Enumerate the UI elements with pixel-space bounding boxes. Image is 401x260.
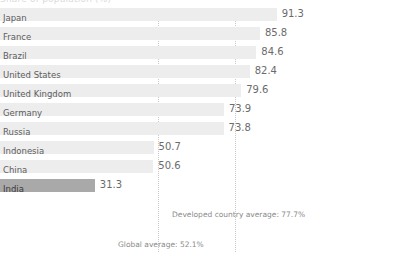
category-label-indonesia: Indonesia bbox=[3, 146, 44, 156]
bar-chart: Share of population (%) Japan91.3France8… bbox=[0, 0, 401, 260]
category-label-japan: Japan bbox=[3, 13, 27, 23]
bar-row: India31.3 bbox=[0, 179, 401, 198]
category-label-china: China bbox=[3, 165, 27, 175]
value-label-indonesia: 50.7 bbox=[159, 140, 181, 153]
bar-row: United Kingdom79.6 bbox=[0, 84, 401, 103]
bar-row: Germany73.9 bbox=[0, 103, 401, 122]
value-label-united-kingdom: 79.6 bbox=[246, 83, 268, 96]
plot-area: Japan91.3France85.8Brazil84.6United Stat… bbox=[0, 8, 401, 204]
category-label-brazil: Brazil bbox=[3, 51, 27, 61]
bar-row: France85.8 bbox=[0, 27, 401, 46]
bar-row: Japan91.3 bbox=[0, 8, 401, 27]
bar-row: Russia73.8 bbox=[0, 122, 401, 141]
value-label-france: 85.8 bbox=[265, 26, 287, 39]
annotation-global-average: Global average: 52.1% bbox=[118, 240, 204, 250]
value-label-russia: 73.8 bbox=[229, 121, 251, 134]
bar-row: Brazil84.6 bbox=[0, 46, 401, 65]
category-label-france: France bbox=[3, 32, 31, 42]
category-label-india: India bbox=[3, 184, 24, 194]
value-label-india: 31.3 bbox=[100, 178, 122, 191]
value-label-china: 50.6 bbox=[158, 159, 180, 172]
bar-france bbox=[0, 27, 260, 40]
bar-russia bbox=[0, 122, 224, 135]
value-label-germany: 73.9 bbox=[229, 102, 251, 115]
bar-row: China50.6 bbox=[0, 160, 401, 179]
value-label-japan: 91.3 bbox=[282, 7, 304, 20]
category-label-germany: Germany bbox=[3, 108, 42, 118]
bar-brazil bbox=[0, 46, 256, 59]
bar-row: United States82.4 bbox=[0, 65, 401, 84]
bar-row: Indonesia50.7 bbox=[0, 141, 401, 160]
bar-japan bbox=[0, 8, 277, 21]
value-label-brazil: 84.6 bbox=[261, 45, 283, 58]
value-label-united-states: 82.4 bbox=[255, 64, 277, 77]
category-label-russia: Russia bbox=[3, 127, 30, 137]
category-label-united-states: United States bbox=[3, 70, 61, 80]
chart-title: Share of population (%) bbox=[0, 0, 111, 4]
category-label-united-kingdom: United Kingdom bbox=[3, 89, 71, 99]
annotation-developed-country-average: Developed country average: 77.7% bbox=[172, 210, 305, 220]
